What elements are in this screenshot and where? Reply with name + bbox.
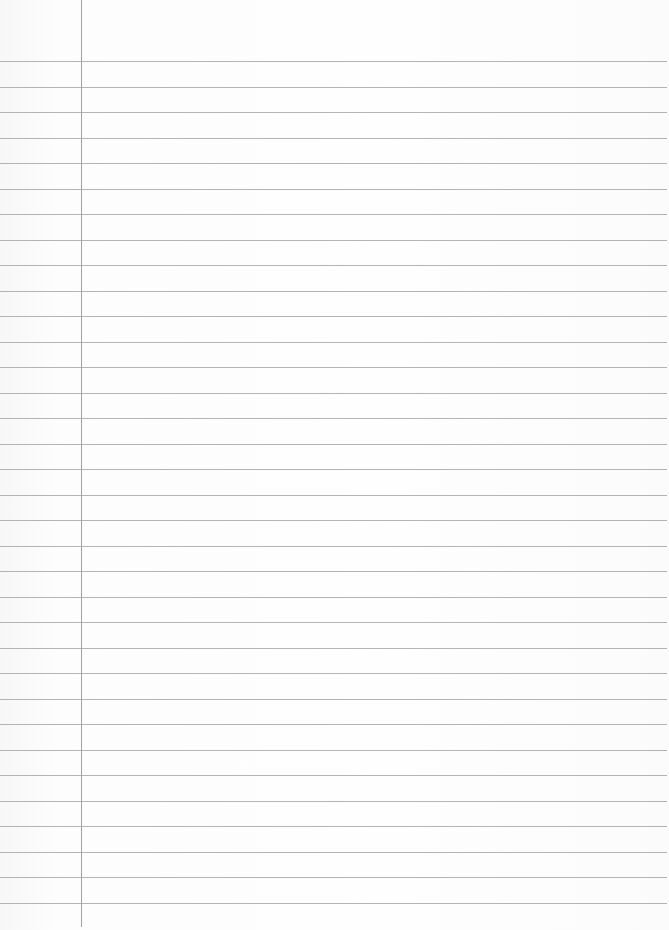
ruled-line [0,571,667,572]
ruled-line [0,418,667,419]
ruled-line [0,163,667,164]
ruled-line [0,801,667,802]
ruled-line [0,622,667,623]
ruled-line [0,291,667,292]
ruled-line [0,189,667,190]
ruled-line [0,724,667,725]
ruled-line [0,750,667,751]
ruled-line [0,826,667,827]
ruled-line [0,775,667,776]
ruled-line [0,699,667,700]
ruled-line [0,214,667,215]
ruled-line [0,673,667,674]
ruled-line [0,469,667,470]
ruled-line [0,393,667,394]
lined-paper-sheet [0,0,669,930]
ruled-line [0,852,667,853]
ruled-line [0,444,667,445]
ruled-line [0,342,667,343]
ruled-line [0,495,667,496]
ruled-line [0,903,667,904]
ruled-line [0,265,667,266]
ruled-line [0,112,667,113]
ruled-line [0,240,667,241]
ruled-line [0,316,667,317]
ruled-line [0,61,667,62]
ruled-line [0,87,667,88]
ruled-line [0,367,667,368]
ruled-line [0,546,667,547]
margin-line [81,0,82,927]
ruled-line [0,648,667,649]
ruled-line [0,520,667,521]
ruled-line [0,597,667,598]
ruled-line [0,138,667,139]
ruled-line [0,877,667,878]
